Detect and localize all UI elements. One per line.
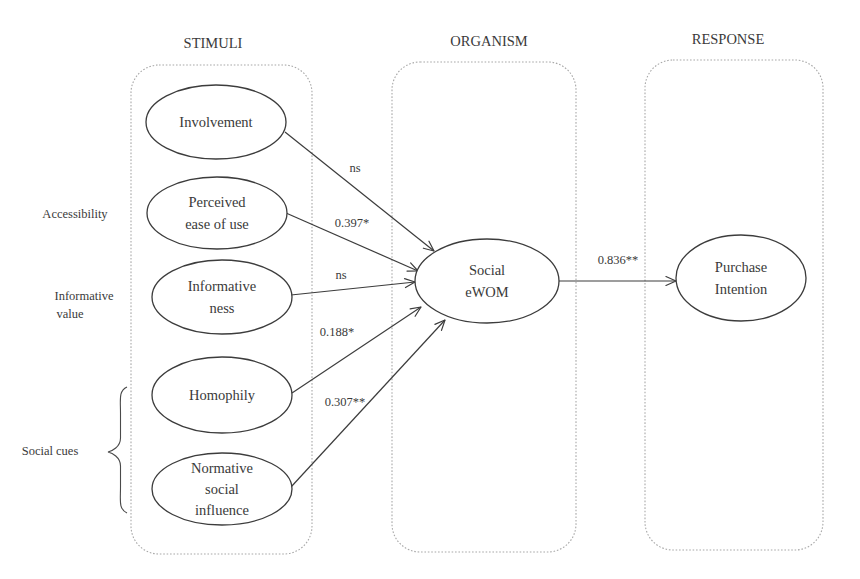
path-line — [291, 282, 415, 295]
accessibility-label: Accessibility — [42, 207, 108, 221]
path-line — [292, 307, 421, 393]
path-coefficient-label: ns — [335, 268, 346, 282]
construct-informativeness: Informativeness — [152, 260, 292, 334]
s-o-r-model-diagram: STIMULI ORGANISM RESPONSE Involvement Pe… — [0, 0, 860, 579]
path-line — [291, 320, 445, 487]
response-title: RESPONSE — [692, 31, 765, 47]
perceived-ease-of-use-ellipse — [147, 177, 287, 249]
social-cues-label: Social cues — [22, 444, 79, 458]
path-coefficient-label: 0.836** — [598, 253, 639, 267]
social-ewom-ellipse — [415, 239, 559, 323]
informative-value-label: Informativevalue — [54, 289, 113, 321]
construct-involvement: Involvement — [146, 85, 286, 159]
side-labels: Accessibility Informativevalue Social cu… — [22, 207, 114, 458]
construct-social-ewom: SocialeWOM — [415, 239, 559, 323]
construct-purchase-intention: PurchaseIntention — [676, 235, 806, 321]
social-cues-brace-icon — [108, 387, 127, 513]
path-coefficient-label: ns — [349, 161, 360, 175]
construct-normative-social-influence: Normativesocialinfluence — [152, 453, 292, 525]
informativeness-ellipse — [152, 260, 292, 334]
path-line — [285, 132, 434, 251]
path-coefficient-label: 0.397* — [335, 216, 369, 230]
homophily-label: Homophily — [189, 387, 256, 403]
path-coefficient-label: 0.307** — [325, 395, 366, 409]
path-coefficient-label: 0.188* — [320, 325, 354, 339]
stage-titles: STIMULI ORGANISM RESPONSE — [184, 31, 765, 51]
construct-homophily: Homophily — [152, 357, 292, 433]
construct-perceived-ease-of-use: Perceivedease of use — [147, 177, 287, 249]
stimuli-title: STIMULI — [184, 35, 243, 51]
constructs: Involvement Perceivedease of use Informa… — [146, 85, 806, 525]
involvement-label: Involvement — [179, 114, 252, 130]
organism-title: ORGANISM — [450, 33, 527, 49]
purchase-intention-ellipse — [676, 235, 806, 321]
